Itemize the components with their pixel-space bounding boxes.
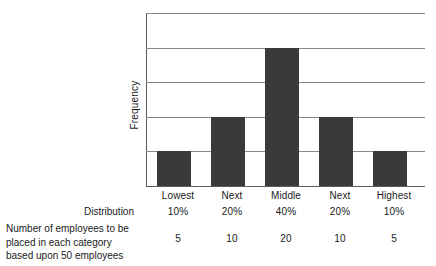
caption-line: placed in each category bbox=[6, 236, 146, 250]
employee-count-value: 5 bbox=[367, 233, 421, 244]
employee-count-value: 10 bbox=[313, 233, 367, 244]
distribution-value: 10% bbox=[151, 206, 205, 217]
bar bbox=[157, 151, 191, 186]
distribution-value: 10% bbox=[367, 206, 421, 217]
employee-count-value: 10 bbox=[205, 233, 259, 244]
y-axis-title: Frequency bbox=[126, 50, 142, 160]
y-axis-title-label: Frequency bbox=[129, 80, 140, 129]
employee-count-value: 20 bbox=[259, 233, 313, 244]
bar bbox=[211, 117, 245, 186]
bar bbox=[373, 151, 407, 186]
distribution-value: 20% bbox=[205, 206, 259, 217]
distribution-value: 20% bbox=[313, 206, 367, 217]
distribution-row-label: Distribution bbox=[60, 206, 134, 217]
category-label: Middle bbox=[259, 190, 313, 201]
category-label: Lowest bbox=[151, 190, 205, 201]
bar bbox=[265, 48, 299, 186]
distribution-value: 40% bbox=[259, 206, 313, 217]
category-label: Next bbox=[313, 190, 367, 201]
category-label: Highest bbox=[367, 190, 421, 201]
caption-line: based upon 50 employees bbox=[6, 249, 146, 263]
category-label: Next bbox=[205, 190, 259, 201]
bars-layer bbox=[147, 13, 425, 186]
x-axis-line bbox=[146, 186, 425, 187]
caption-line: Number of employees to be bbox=[6, 222, 146, 236]
bar-chart-figure: Frequency Lowest Next Middle Next Highes… bbox=[0, 0, 436, 266]
bar bbox=[319, 117, 353, 186]
employee-count-value: 5 bbox=[151, 233, 205, 244]
employee-count-caption: Number of employees to be placed in each… bbox=[6, 222, 146, 263]
plot-area bbox=[146, 13, 425, 186]
